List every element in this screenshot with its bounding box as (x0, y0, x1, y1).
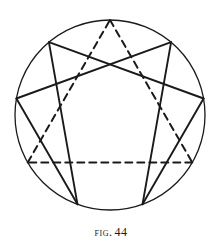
dashed-triangle-group (28, 20, 193, 163)
dashed-triangle-segment-9-3 (110, 20, 192, 163)
caption-number: 44 (112, 225, 127, 239)
circle-group (15, 20, 205, 210)
enclosing-circle (15, 20, 205, 210)
solid-hexad-group (16, 42, 203, 204)
enneagram-diagram (0, 0, 222, 247)
figure-plate: Fig.44 (0, 0, 222, 247)
figure-caption: Fig.44 (0, 223, 222, 239)
dashed-triangle-segment-6-9 (28, 20, 110, 163)
caption-label: Fig. (95, 225, 113, 239)
caption-text-wrapper: Fig.44 (95, 226, 128, 238)
